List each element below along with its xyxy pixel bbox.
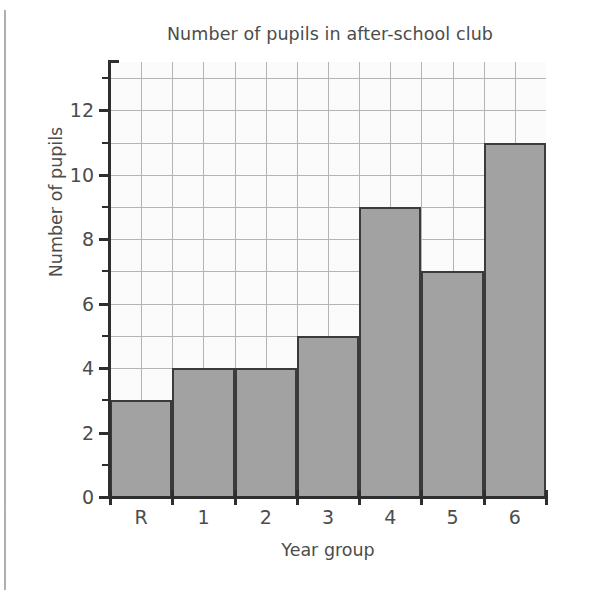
y-tick-major xyxy=(99,109,110,112)
bar-6 xyxy=(484,143,546,497)
y-tick-major xyxy=(99,174,110,177)
x-tick xyxy=(171,490,174,505)
bar-R xyxy=(110,400,172,497)
y-tick-major xyxy=(99,432,110,435)
x-tick xyxy=(296,490,299,505)
x-tick-label-3: 3 xyxy=(297,506,359,528)
bar-5 xyxy=(421,271,483,497)
x-tick-label-1: 1 xyxy=(172,506,234,528)
y-axis-top-cap xyxy=(108,60,119,63)
x-tick-label-2: 2 xyxy=(235,506,297,528)
x-tick-label-R: R xyxy=(110,506,172,528)
y-tick-major xyxy=(99,238,110,241)
y-tick-major xyxy=(99,303,110,306)
plot-area xyxy=(110,62,546,497)
bar-3 xyxy=(297,336,359,497)
x-axis-title: Year group xyxy=(110,540,546,560)
x-tick xyxy=(420,490,423,505)
y-tick-label: 2 xyxy=(52,422,94,444)
y-tick-label: 0 xyxy=(52,486,94,508)
y-tick-label: 4 xyxy=(52,357,94,379)
y-tick-major xyxy=(99,367,110,370)
y-tick-minor xyxy=(102,142,110,144)
x-tick xyxy=(234,490,237,505)
bar-chart-figure: Number of pupils in after-school club 02… xyxy=(0,0,596,606)
x-tick xyxy=(109,490,112,505)
x-tick-label-5: 5 xyxy=(422,506,484,528)
y-tick-minor xyxy=(102,270,110,272)
bar-2 xyxy=(235,368,297,497)
bar-4 xyxy=(359,207,421,497)
x-tick-label-4: 4 xyxy=(359,506,421,528)
y-tick-minor xyxy=(102,206,110,208)
x-tick xyxy=(483,490,486,505)
y-tick-minor xyxy=(102,464,110,466)
chart-title: Number of pupils in after-school club xyxy=(110,24,550,44)
y-tick-minor xyxy=(102,335,110,337)
y-axis-title: Number of pupils xyxy=(46,107,66,297)
bars-group xyxy=(110,62,546,497)
x-tick-label-6: 6 xyxy=(484,506,546,528)
x-tick xyxy=(545,490,548,505)
bar-1 xyxy=(172,368,234,497)
y-tick-minor xyxy=(102,399,110,401)
x-tick xyxy=(358,490,361,505)
y-tick-minor xyxy=(102,77,110,79)
